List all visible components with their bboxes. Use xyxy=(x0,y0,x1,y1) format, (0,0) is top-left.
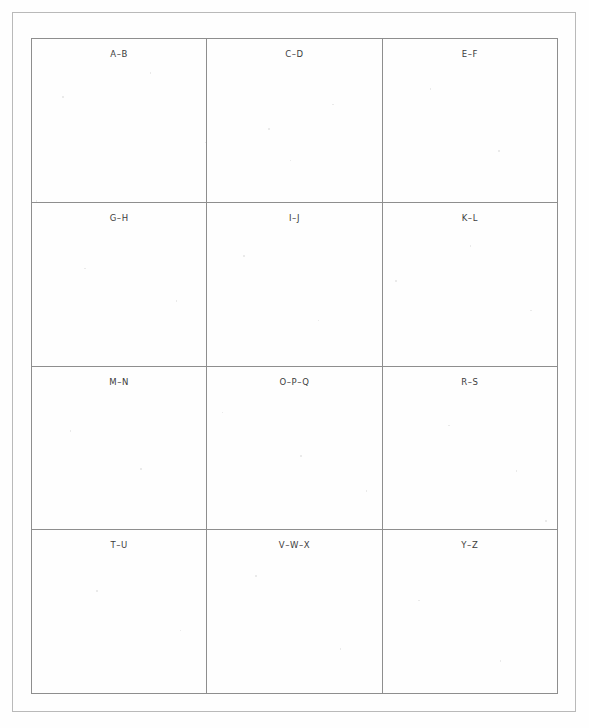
index-cell-label: Y–Z xyxy=(383,530,557,550)
index-cell-label: I–J xyxy=(207,203,381,223)
index-cell-label: O–P–Q xyxy=(207,367,381,387)
index-cell-writing-area[interactable] xyxy=(383,222,557,385)
index-cell-writing-area[interactable] xyxy=(32,59,206,222)
index-cell-label: E–F xyxy=(383,39,557,59)
index-cell-writing-area[interactable] xyxy=(32,386,206,549)
index-cell-writing-area[interactable] xyxy=(383,59,557,222)
index-cell-label: V–W–X xyxy=(207,530,381,550)
index-cell-k-l[interactable]: K–L xyxy=(382,202,557,366)
index-cell-o-p-q[interactable]: O–P–Q xyxy=(207,366,382,530)
index-cell-y-z[interactable]: Y–Z xyxy=(382,530,557,694)
index-cell-writing-area[interactable] xyxy=(207,386,381,549)
index-cell-writing-area[interactable] xyxy=(32,550,206,713)
table-row: M–N O–P–Q R–S xyxy=(32,366,558,530)
index-cell-g-h[interactable]: G–H xyxy=(32,202,207,366)
index-cell-t-u[interactable]: T–U xyxy=(32,530,207,694)
index-cell-label: R–S xyxy=(383,367,557,387)
table-row: A–B C–D E–F xyxy=(32,39,558,203)
index-cell-i-j[interactable]: I–J xyxy=(207,202,382,366)
alphabet-index-table: A–B C–D E–F G–H I–J xyxy=(31,38,558,694)
index-cell-m-n[interactable]: M–N xyxy=(32,366,207,530)
index-cell-writing-area[interactable] xyxy=(32,222,206,385)
index-cell-label: A–B xyxy=(32,39,206,59)
index-cell-r-s[interactable]: R–S xyxy=(382,366,557,530)
index-cell-writing-area[interactable] xyxy=(383,386,557,549)
index-cell-writing-area[interactable] xyxy=(207,550,381,713)
index-cell-v-w-x[interactable]: V–W–X xyxy=(207,530,382,694)
table-row: T–U V–W–X Y–Z xyxy=(32,530,558,694)
scanned-page: A–B C–D E–F G–H I–J xyxy=(0,0,589,728)
index-cell-label: G–H xyxy=(32,203,206,223)
table-row: G–H I–J K–L xyxy=(32,202,558,366)
index-cell-writing-area[interactable] xyxy=(207,59,381,222)
index-cell-c-d[interactable]: C–D xyxy=(207,39,382,203)
index-cell-e-f[interactable]: E–F xyxy=(382,39,557,203)
index-cell-label: T–U xyxy=(32,530,206,550)
index-cell-label: K–L xyxy=(383,203,557,223)
index-cell-writing-area[interactable] xyxy=(383,550,557,713)
index-cell-writing-area[interactable] xyxy=(207,222,381,385)
index-cell-label: M–N xyxy=(32,367,206,387)
index-cell-label: C–D xyxy=(207,39,381,59)
index-cell-a-b[interactable]: A–B xyxy=(32,39,207,203)
